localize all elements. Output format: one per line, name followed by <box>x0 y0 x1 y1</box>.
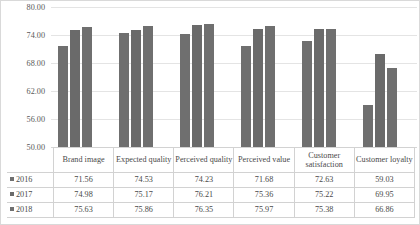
table-value-cell: 75.97 <box>234 203 294 218</box>
table-value-cell: 71.56 <box>54 173 114 188</box>
table-value-cell: 66.86 <box>354 203 414 218</box>
table-corner-cell <box>7 148 54 173</box>
bar[interactable] <box>204 24 214 147</box>
bar[interactable] <box>265 26 275 147</box>
y-axis-tick-label: 62.00 <box>27 87 45 96</box>
legend-item-2017[interactable]: 2017 <box>7 188 54 203</box>
table-value-cell: 76.21 <box>174 188 234 203</box>
bar-group <box>173 7 234 147</box>
bar[interactable] <box>302 41 312 147</box>
bar[interactable] <box>375 54 385 147</box>
bar[interactable] <box>192 25 202 147</box>
legend-label: 2016 <box>16 175 32 185</box>
bar-group <box>112 7 173 147</box>
table-row: 201875.6375.8676.3575.9775.3866.86 <box>7 203 415 218</box>
legend-label: 2017 <box>16 190 32 200</box>
bar[interactable] <box>143 26 153 147</box>
data-table: Brand imageExpected qualityPerceived qua… <box>7 147 415 218</box>
bars-layer <box>51 7 417 147</box>
bar[interactable] <box>387 68 397 147</box>
bar[interactable] <box>241 46 251 147</box>
legend-label: 2018 <box>16 205 32 215</box>
plot-area: 80.0074.0068.0062.0056.0050.00 <box>1 7 420 147</box>
legend-swatch-icon <box>10 207 14 211</box>
category-header-cell: Brand image <box>54 148 114 173</box>
y-axis-tick-label: 56.00 <box>27 115 45 124</box>
data-table-body: Brand imageExpected qualityPerceived qua… <box>7 148 415 218</box>
table-header-row: Brand imageExpected qualityPerceived qua… <box>7 148 415 173</box>
table-value-cell: 75.86 <box>114 203 174 218</box>
table-value-cell: 74.53 <box>114 173 174 188</box>
bar[interactable] <box>58 46 68 147</box>
bar[interactable] <box>326 29 336 147</box>
bar[interactable] <box>253 29 263 147</box>
bar-group <box>51 7 112 147</box>
bar[interactable] <box>119 33 129 147</box>
bar-group <box>295 7 356 147</box>
table-value-cell: 75.36 <box>234 188 294 203</box>
y-axis: 80.0074.0068.0062.0056.0050.00 <box>1 7 49 147</box>
legend-swatch-icon <box>10 192 14 196</box>
bar[interactable] <box>363 105 373 147</box>
table-value-cell: 75.38 <box>294 203 354 218</box>
table-value-cell: 76.35 <box>174 203 234 218</box>
category-header-cell: Perceived quality <box>174 148 234 173</box>
legend-swatch-icon <box>10 177 14 181</box>
table-value-cell: 75.22 <box>294 188 354 203</box>
y-axis-tick-label: 74.00 <box>27 31 45 40</box>
y-axis-tick-label: 80.00 <box>27 3 45 12</box>
bar-group <box>234 7 295 147</box>
category-header-cell: Expected quality <box>114 148 174 173</box>
bar[interactable] <box>82 27 92 147</box>
chart-container: 80.0074.0068.0062.0056.0050.00 Brand ima… <box>0 0 420 225</box>
table-value-cell: 72.63 <box>294 173 354 188</box>
table-value-cell: 75.63 <box>54 203 114 218</box>
bar[interactable] <box>180 34 190 147</box>
table-value-cell: 74.23 <box>174 173 234 188</box>
y-axis-tick-label: 68.00 <box>27 59 45 68</box>
category-header-cell: Perceived value <box>234 148 294 173</box>
category-header-cell: Customer loyalty <box>354 148 414 173</box>
table-value-cell: 74.98 <box>54 188 114 203</box>
bar[interactable] <box>70 30 80 147</box>
table-row: 201671.5674.5374.2371.6872.6359.03 <box>7 173 415 188</box>
bar-group <box>356 7 417 147</box>
bar[interactable] <box>131 30 141 147</box>
table-row: 201774.9875.1776.2175.3675.2269.95 <box>7 188 415 203</box>
category-header-cell: Customer satisfaction <box>294 148 354 173</box>
table-value-cell: 71.68 <box>234 173 294 188</box>
legend-item-2018[interactable]: 2018 <box>7 203 54 218</box>
table-value-cell: 75.17 <box>114 188 174 203</box>
table-value-cell: 69.95 <box>354 188 414 203</box>
legend-item-2016[interactable]: 2016 <box>7 173 54 188</box>
bar[interactable] <box>314 29 324 147</box>
table-value-cell: 59.03 <box>354 173 414 188</box>
